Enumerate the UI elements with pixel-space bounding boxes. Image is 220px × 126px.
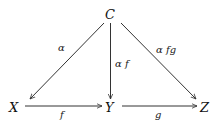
node-y: Y — [105, 100, 115, 115]
node-c: C — [105, 7, 115, 22]
arrow-c-to-z — [121, 23, 196, 99]
label-alpha: α — [58, 42, 65, 53]
label-g: g — [155, 109, 161, 120]
node-z: Z — [199, 100, 210, 115]
label-alpha-fg: α fg — [156, 44, 176, 55]
commutative-diagram: C X Y Z α α f α fg f g — [0, 0, 220, 126]
label-alpha-f: α f — [115, 58, 131, 69]
label-f: f — [59, 109, 66, 120]
arrow-c-to-x — [30, 23, 104, 99]
node-x: X — [8, 100, 19, 115]
